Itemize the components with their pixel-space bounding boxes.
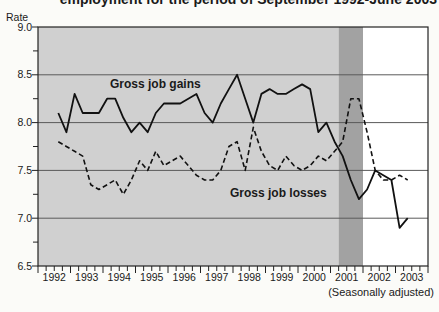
y-tick-label-8.0: 8.0 <box>4 117 32 128</box>
x-tick-label-1999: 1999 <box>265 271 299 283</box>
y-tick-label-7.5: 7.5 <box>4 165 32 176</box>
x-tick-label-1996: 1996 <box>167 271 201 283</box>
x-tick-label-1998: 1998 <box>232 271 266 283</box>
x-tick-label-2003: 2003 <box>395 271 429 283</box>
x-tick-label-1993: 1993 <box>70 271 104 283</box>
x-tick-label-2001: 2001 <box>330 271 364 283</box>
x-tick-label-2000: 2000 <box>297 271 331 283</box>
plot-gray-background <box>38 27 339 266</box>
y-tick-label-8.5: 8.5 <box>4 69 32 80</box>
x-tick-label-1995: 1995 <box>135 271 169 283</box>
x-tick-label-1994: 1994 <box>102 271 136 283</box>
seasonally-adjusted-note: (Seasonally adjusted) <box>328 286 434 298</box>
x-tick-label-2002: 2002 <box>362 271 396 283</box>
plot-area <box>0 0 439 312</box>
series-label-gross-job-gains: Gross job gains <box>110 77 201 91</box>
chart-figure: employment for the period of September 1… <box>0 0 439 312</box>
y-tick-label-7.0: 7.0 <box>4 213 32 224</box>
y-tick-label-6.5: 6.5 <box>4 261 32 272</box>
recession-band-2001 <box>339 27 363 266</box>
x-tick-label-1997: 1997 <box>200 271 234 283</box>
post-recession-background <box>363 27 428 266</box>
y-tick-label-9.0: 9.0 <box>4 22 32 33</box>
series-label-gross-job-losses: Gross job losses <box>230 186 327 200</box>
x-tick-label-1992: 1992 <box>37 271 71 283</box>
